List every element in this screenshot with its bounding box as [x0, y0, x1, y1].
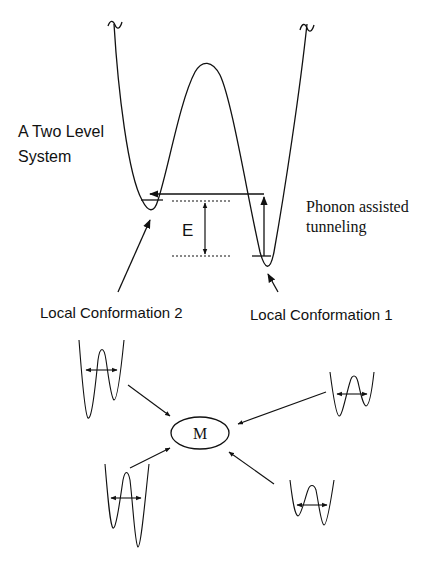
two-level-system-diagram: A Two Level System E Phonon assisted tun… — [0, 0, 440, 563]
conformation-1-pointer-arrow — [268, 274, 278, 292]
tunneling-label-line-2: tunneling — [306, 218, 366, 236]
double-well-potential — [108, 21, 314, 266]
arrow-top-left-to-m — [128, 385, 170, 416]
energy-label: E — [182, 221, 193, 240]
title-line-2: System — [18, 148, 71, 165]
small-well-bottom-left — [105, 464, 149, 547]
title-line-1: A Two Level — [18, 123, 104, 140]
tunneling-label-line-1: Phonon assisted — [306, 198, 409, 215]
conformation-2-label: Local Conformation 2 — [40, 304, 183, 321]
arrow-bottom-right-to-m — [229, 452, 274, 484]
arrow-top-right-to-m — [238, 392, 326, 424]
small-well-top-right — [330, 372, 374, 416]
arrow-bottom-left-to-m — [130, 448, 170, 468]
energy-reference-lines — [172, 201, 232, 256]
conformation-2-pointer-arrow — [118, 220, 150, 292]
break-tilde-left — [108, 21, 122, 28]
tunneling-arrow — [150, 194, 264, 256]
molecule-label: M — [193, 425, 207, 442]
small-well-bottom-right — [290, 480, 334, 525]
conformation-1-label: Local Conformation 1 — [250, 306, 393, 323]
small-well-top-left — [79, 340, 124, 418]
